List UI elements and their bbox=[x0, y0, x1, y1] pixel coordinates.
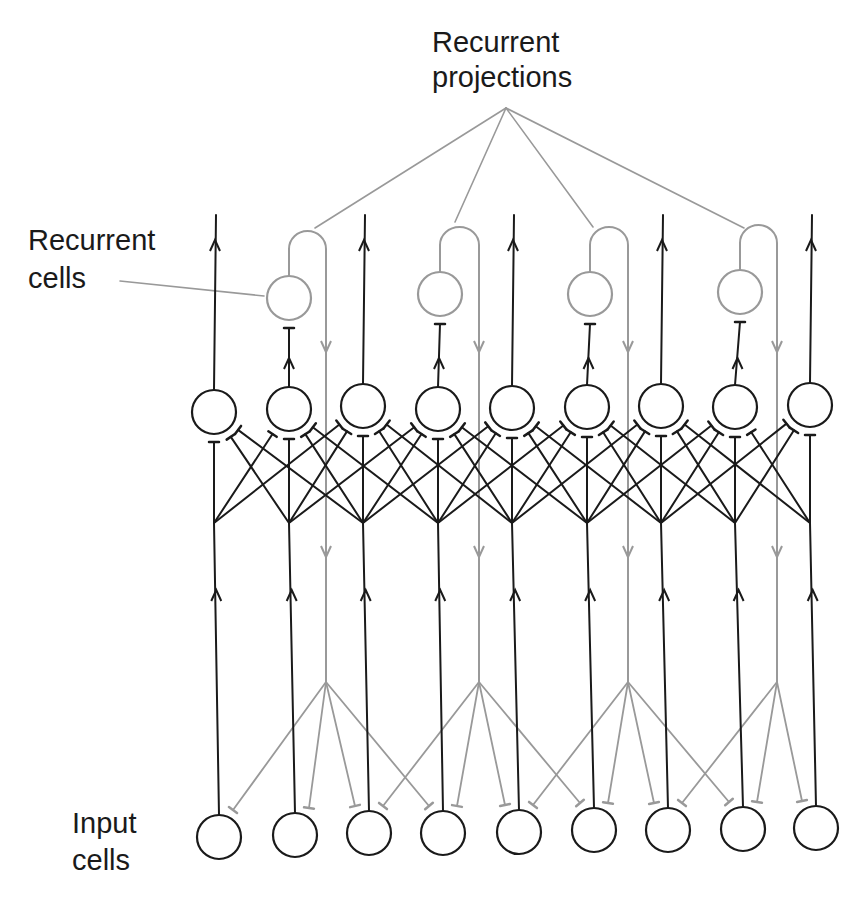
label-input-cells-line2: cells bbox=[72, 844, 130, 876]
recurrent-branch bbox=[457, 682, 479, 806]
synapse-terminal-icon bbox=[797, 800, 807, 802]
recurrent-branch bbox=[628, 682, 729, 802]
feedforward-axon bbox=[810, 523, 816, 806]
arrow-icon bbox=[510, 590, 520, 601]
input-cell bbox=[794, 806, 838, 850]
input-cell bbox=[721, 807, 765, 851]
projection-pointer-line bbox=[506, 108, 593, 227]
synapse-terminal-icon bbox=[450, 431, 458, 436]
label-recurrent-projections-line1: Recurrent bbox=[432, 26, 559, 58]
feedforward-branch bbox=[289, 431, 347, 523]
arrow-icon bbox=[808, 590, 818, 601]
feedforward-branch bbox=[677, 431, 735, 523]
arrow-icon bbox=[585, 590, 595, 601]
projection-pointer-line bbox=[315, 108, 506, 228]
synapse-terminal-icon bbox=[452, 805, 462, 807]
middle-cell bbox=[565, 385, 609, 429]
middle-cell bbox=[267, 387, 311, 431]
synapse-terminal-icon bbox=[649, 802, 659, 804]
projection-pointer-line bbox=[506, 108, 744, 228]
recurrent-branch bbox=[777, 682, 802, 801]
recurrent-branch bbox=[608, 682, 628, 803]
arrow-icon bbox=[361, 590, 371, 601]
feedforward-branch bbox=[528, 433, 587, 523]
input-cell bbox=[497, 810, 541, 854]
recurrent-cell bbox=[568, 272, 612, 316]
recurrent-branch bbox=[533, 682, 628, 805]
label-recurrent-projections-line2: projections bbox=[432, 61, 572, 93]
feedforward-axon bbox=[289, 523, 295, 813]
input-cell bbox=[273, 813, 317, 857]
synapse-terminal-icon bbox=[524, 430, 532, 435]
recurrent-cell bbox=[267, 276, 311, 320]
synapse-terminal-icon bbox=[492, 431, 500, 436]
feedforward-axon bbox=[661, 523, 668, 808]
synapse-terminal-icon bbox=[599, 430, 607, 435]
synapse-terminal-icon bbox=[350, 805, 360, 807]
middle-cell bbox=[192, 390, 236, 434]
feedforward-branch bbox=[735, 430, 794, 523]
synapse-terminal-icon bbox=[500, 804, 510, 806]
input-cell bbox=[572, 808, 616, 852]
synapse-terminal-icon bbox=[227, 434, 235, 440]
synapse-terminal-icon bbox=[747, 429, 755, 434]
synapse-terminal-icon bbox=[229, 807, 237, 813]
synapse-terminal-icon bbox=[304, 807, 314, 808]
feedforward-branch bbox=[214, 434, 273, 523]
arrow-icon bbox=[659, 590, 669, 601]
feedforward-axon bbox=[214, 523, 219, 815]
recurrent-branch bbox=[479, 682, 505, 805]
to-recurrent-axon bbox=[735, 322, 740, 385]
to-recurrent-axon bbox=[587, 324, 590, 385]
input-cell bbox=[347, 811, 391, 855]
synapse-terminal-icon bbox=[752, 801, 762, 803]
middle-cell bbox=[713, 385, 757, 429]
input-cell bbox=[421, 811, 465, 855]
feedforward-branch bbox=[603, 432, 661, 523]
middle-cell bbox=[341, 384, 385, 428]
feedforward-branch bbox=[751, 432, 810, 523]
synapse-terminal-icon bbox=[375, 429, 383, 434]
feedforward-branch bbox=[305, 434, 363, 523]
feedforward-axon bbox=[735, 523, 743, 807]
feedforward-branch bbox=[363, 434, 422, 523]
feedforward-branch bbox=[231, 437, 289, 523]
middle-cell bbox=[788, 383, 832, 427]
middle-cell bbox=[416, 387, 460, 431]
synapse-terminal-icon bbox=[301, 431, 309, 436]
middle-cell bbox=[490, 386, 534, 430]
synapse-terminal-icon bbox=[715, 430, 723, 435]
recurrent-branch bbox=[479, 682, 580, 803]
recurrent-cell bbox=[418, 272, 462, 316]
feedforward-branch bbox=[454, 434, 512, 523]
synapse-terminal-icon bbox=[343, 429, 351, 434]
recurrent-branch bbox=[628, 682, 654, 803]
feedforward-axon bbox=[512, 523, 519, 810]
network-diagram: Recurrent projections Recurrent cells In… bbox=[0, 0, 867, 898]
synapse-terminal-icon bbox=[567, 429, 575, 434]
synapse-terminal-icon bbox=[268, 431, 276, 436]
input-cell bbox=[646, 808, 690, 852]
synapse-terminal-icon bbox=[417, 431, 425, 436]
feedforward-axon bbox=[587, 523, 594, 808]
middle-cell bbox=[639, 384, 683, 428]
synapse-terminal-icon bbox=[603, 802, 613, 804]
recurrent-branch bbox=[757, 682, 777, 802]
recurrent-branch bbox=[682, 682, 777, 803]
recurrent-branch bbox=[383, 682, 479, 806]
synapse-terminal-icon bbox=[235, 426, 241, 434]
recurrent-branch bbox=[326, 682, 429, 806]
projection-pointer-line bbox=[455, 108, 506, 222]
arrow-icon bbox=[734, 590, 744, 601]
label-recurrent-cells-line1: Recurrent bbox=[28, 224, 155, 256]
recurrent-cell bbox=[718, 270, 762, 314]
feedforward-axon bbox=[438, 523, 443, 811]
feedforward-branch bbox=[379, 431, 438, 523]
input-cell bbox=[197, 815, 241, 859]
recurrent-pathways bbox=[120, 108, 807, 813]
label-input-cells-line1: Input bbox=[72, 807, 137, 839]
arrow-icon bbox=[287, 590, 297, 601]
synapse-terminal-icon bbox=[790, 428, 798, 433]
feedforward-branch bbox=[661, 432, 719, 523]
recurrent-cells-pointer-line bbox=[120, 281, 264, 296]
